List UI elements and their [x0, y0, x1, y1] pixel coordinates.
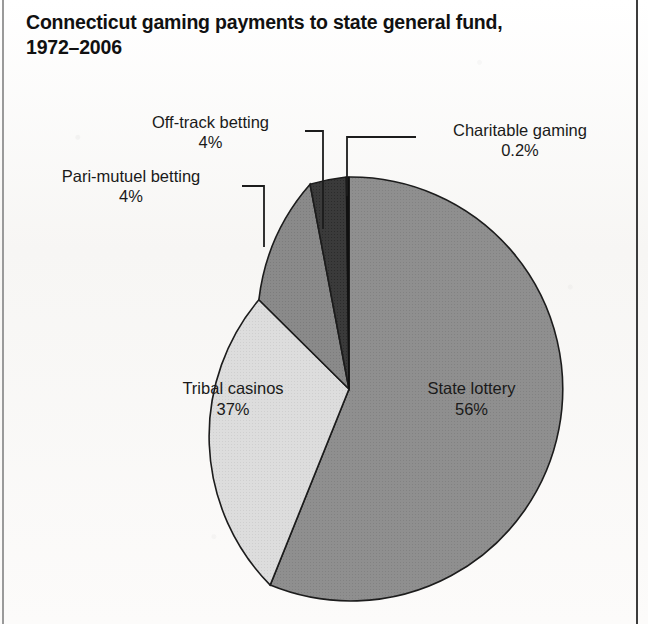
- slice-label-off-track-betting: Off-track betting 4%: [118, 112, 303, 152]
- slice-label-pari-mutuel-betting: Pari-mutuel betting 4%: [22, 166, 240, 206]
- pie-chart: Off-track betting 4% Pari-mutuel betting…: [0, 0, 648, 624]
- pie-chart-svg: [0, 0, 648, 624]
- slice-label-charitable-gaming: Charitable gaming 0.2%: [420, 120, 620, 160]
- leader-line-pari-mutuel-betting: [242, 186, 264, 247]
- slice-label-state-lottery: State lottery 56%: [384, 378, 559, 420]
- slice-label-tribal-casinos: Tribal casinos 37%: [143, 378, 323, 420]
- scanned-page: Connecticut gaming payments to state gen…: [0, 0, 648, 624]
